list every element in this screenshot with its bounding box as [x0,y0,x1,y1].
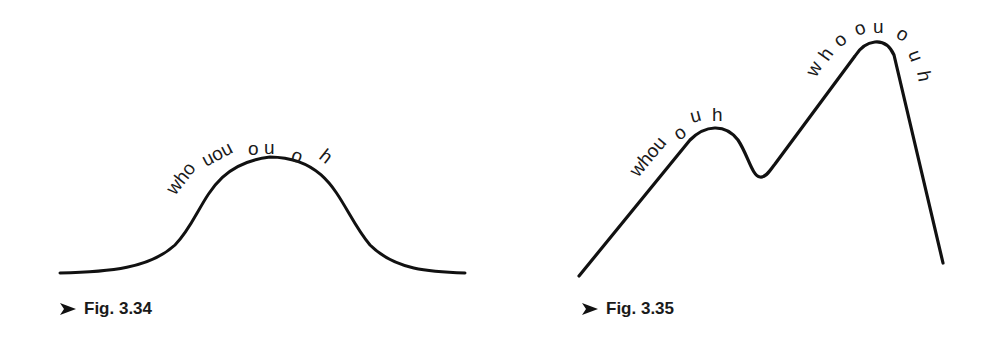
caption-fig-3-35: Fig. 3.35 [582,299,674,319]
figure-3-34: whouououoh [60,137,465,273]
phonetic-label: u [873,16,884,37]
phonetic-label: o [829,28,851,51]
phonetic-label: h [814,44,837,65]
phonetic-label: o [893,22,913,45]
arrowhead-icon [60,303,76,315]
figure-3-35: whououhwhoououh [579,16,943,276]
phonetic-label: o [248,138,259,159]
phonetic-label: u [264,137,275,158]
phonetic-label: who [161,158,200,199]
phonetic-label: u [904,47,927,64]
phonetic-label: o [669,121,690,144]
arrowhead-icon [582,303,598,315]
caption-fig-3-34: Fig. 3.34 [60,299,152,319]
phonetic-label: w [801,57,827,80]
caption-text: Fig. 3.34 [84,299,152,319]
phonetic-label: h [712,104,723,125]
phonetic-label: h [913,69,936,83]
bell-curve [60,157,465,273]
phonetic-label: u [688,104,704,127]
phonetic-label: o [851,16,868,39]
phonetic-label: h [316,145,337,168]
phonetic-label: uou [198,137,236,170]
figure-canvas: whouououoh whououhwhoououh [0,0,991,342]
caption-text: Fig. 3.35 [606,299,674,319]
